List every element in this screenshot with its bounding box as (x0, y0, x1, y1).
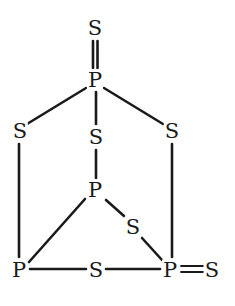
atom-s-bottom: S (88, 260, 104, 281)
atom-s-right: S (164, 121, 180, 142)
atom-p-top: P (87, 70, 103, 91)
bond-p-center-p-bottomleft (29, 199, 85, 262)
atom-s-top: S (87, 18, 103, 39)
atom-p-bottomright: P (162, 260, 178, 281)
atom-p-center: P (87, 180, 103, 201)
atom-p-bottomleft: P (11, 260, 27, 281)
bond-layer (0, 0, 235, 306)
atom-s-left: S (12, 121, 28, 142)
atom-s-center: S (88, 127, 104, 148)
bond-p-center-s-midright (106, 200, 124, 216)
atom-s-midright: S (125, 217, 141, 238)
bond-p-top-s-right (104, 88, 163, 124)
bond-p-top-s-left (27, 88, 86, 124)
atom-s-farright: S (204, 260, 220, 281)
bond-s-midright-p-bottomright (142, 238, 162, 260)
molecule-diagram: S P S S S P S P S P S (0, 0, 235, 306)
